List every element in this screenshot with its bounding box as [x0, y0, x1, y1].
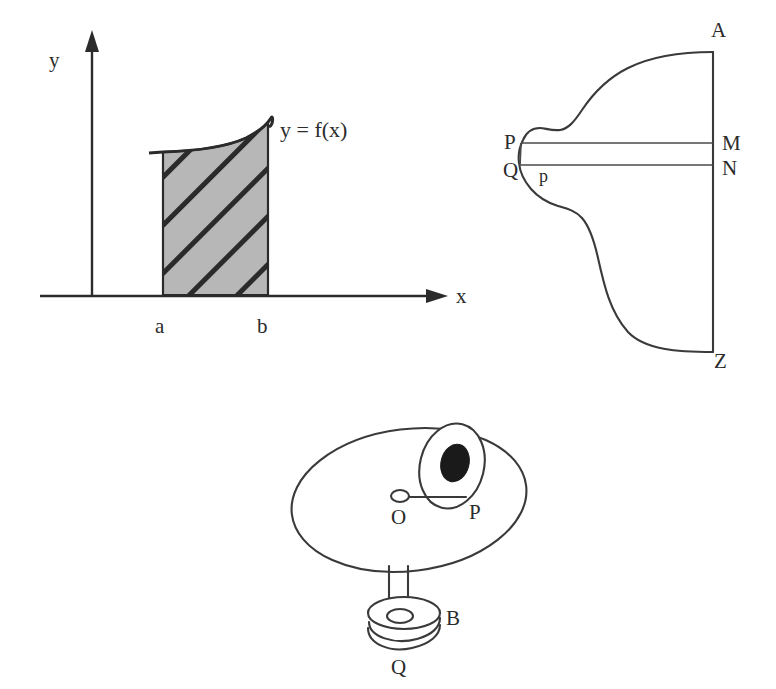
- figure-page: y x a b y = f(x) P Q p A M N Z: [0, 0, 776, 689]
- bob-and-disc-figure: O P B Q: [283, 415, 535, 679]
- label-p-small: p: [539, 166, 548, 186]
- label-Q: Q: [503, 158, 518, 182]
- label-O: O: [391, 505, 406, 529]
- function-curve-label: y = f(x): [280, 117, 347, 142]
- label-P: P: [504, 130, 516, 154]
- strip-cross-section-figure: P Q p A M N Z: [503, 18, 741, 373]
- x-axis-label: x: [456, 284, 467, 308]
- y-axis: [85, 30, 99, 296]
- y-axis-label: y: [49, 48, 60, 72]
- x-axis-arrowhead-icon: [426, 289, 448, 303]
- disc-B-inner-hole: [387, 609, 413, 623]
- label-Z: Z: [714, 349, 727, 373]
- upper-limit-label: b: [257, 314, 268, 338]
- y-axis-arrowhead-icon: [85, 30, 99, 52]
- lower-limit-label: a: [155, 314, 165, 338]
- label-Q-bob: Q: [391, 655, 406, 679]
- label-B-disc: B: [446, 606, 460, 630]
- figure-canvas: y x a b y = f(x) P Q p A M N Z: [0, 0, 776, 689]
- lamina-outline: [519, 52, 713, 352]
- bob-disc-B: [368, 597, 440, 649]
- integral-area-figure: y x a b y = f(x): [40, 30, 467, 338]
- label-M: M: [722, 131, 741, 155]
- label-N: N: [722, 156, 737, 180]
- centre-marker-O: [391, 490, 409, 502]
- label-A: A: [711, 18, 727, 42]
- main-disc-ellipse: [283, 415, 535, 585]
- strip-left-closure: [520, 143, 521, 165]
- label-P-peg: P: [469, 500, 481, 524]
